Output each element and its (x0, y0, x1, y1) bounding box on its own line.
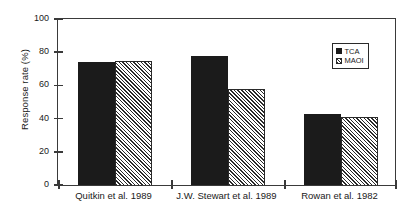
bar-maoi[interactable] (115, 61, 152, 186)
legend-item-tca[interactable]: TCA (336, 47, 364, 56)
x-tick-mark (58, 180, 60, 189)
x-axis-category-label: Quitkin et al. 1989 (57, 190, 170, 201)
x-tick-mark (284, 180, 286, 189)
bar-maoi[interactable] (228, 89, 265, 185)
y-tick-label: 60 (39, 79, 49, 89)
legend-swatch-maoi-icon (336, 58, 342, 64)
y-tick-label: 0 (44, 179, 49, 189)
x-axis-category-label: Rowan et al. 1982 (283, 190, 396, 201)
bar-chart-figure: Response rate (%) 100806040200 Quitkin e… (0, 0, 418, 222)
x-tick-mark (171, 180, 173, 189)
y-tick-label: 20 (39, 146, 49, 156)
bar-tca[interactable] (191, 56, 228, 185)
legend-swatch-tca-icon (336, 48, 342, 54)
bar-group (191, 19, 265, 185)
bar-maoi[interactable] (341, 117, 378, 185)
legend-label: TCA (345, 47, 360, 56)
bar-tca[interactable] (78, 62, 115, 185)
legend-item-maoi[interactable]: MAOI (336, 56, 364, 65)
legend-label: MAOI (345, 56, 364, 65)
x-tick-mark (395, 180, 397, 189)
chart-legend: TCAMAOI (332, 43, 369, 69)
y-axis-title: Response rate (%) (19, 20, 30, 160)
y-tick-label: 40 (39, 113, 49, 123)
y-tick-label: 100 (34, 13, 49, 23)
x-axis-category-label: J.W. Stewart et al. 1989 (170, 190, 283, 201)
y-tick-label: 80 (39, 46, 49, 56)
bar-group (78, 19, 152, 185)
bar-tca[interactable] (304, 114, 341, 185)
